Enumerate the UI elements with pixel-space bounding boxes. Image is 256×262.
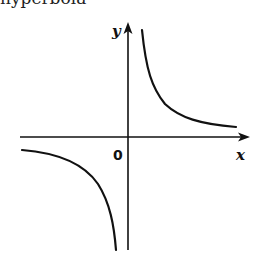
y-axis-label: y bbox=[111, 22, 122, 40]
x-axis bbox=[20, 133, 250, 142]
origin-label: 0 bbox=[113, 147, 123, 163]
curve-lower-left-branch bbox=[22, 150, 116, 250]
curve-upper-right-branch bbox=[142, 30, 236, 127]
hyperbola-graph: y x 0 bbox=[0, 0, 256, 262]
y-axis bbox=[124, 22, 133, 250]
x-axis-label: x bbox=[235, 146, 246, 164]
